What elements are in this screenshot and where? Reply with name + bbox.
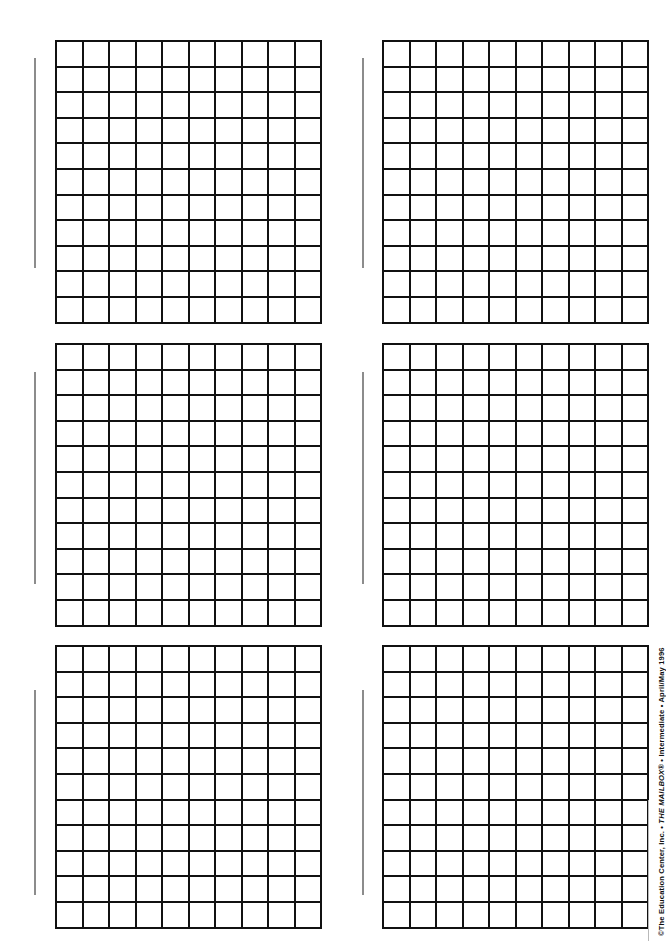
grid-cell[interactable]	[436, 748, 463, 774]
grid-cell[interactable]	[463, 672, 490, 698]
grid-cell[interactable]	[295, 446, 322, 472]
grid-cell[interactable]	[463, 41, 490, 67]
grid-cell[interactable]	[436, 523, 463, 549]
grid-cell[interactable]	[109, 118, 136, 144]
grid-cell[interactable]	[410, 800, 437, 826]
grid-cell[interactable]	[383, 600, 410, 626]
grid-cell[interactable]	[295, 421, 322, 447]
grid-cell[interactable]	[189, 600, 216, 626]
grid-cell[interactable]	[436, 143, 463, 169]
grid-cell[interactable]	[189, 876, 216, 902]
grid-cell[interactable]	[383, 344, 410, 370]
grid-cell[interactable]	[569, 646, 596, 672]
grid-cell[interactable]	[436, 246, 463, 272]
grid-cell[interactable]	[463, 774, 490, 800]
grid-cell[interactable]	[595, 774, 622, 800]
grid-cell[interactable]	[295, 697, 322, 723]
grid-cell[interactable]	[489, 672, 516, 698]
grid-cell[interactable]	[109, 825, 136, 851]
grid-cell[interactable]	[56, 600, 83, 626]
grid-cell[interactable]	[595, 446, 622, 472]
grid-cell[interactable]	[436, 723, 463, 749]
grid-cell[interactable]	[410, 118, 437, 144]
grid-cell[interactable]	[410, 672, 437, 698]
grid-cell[interactable]	[569, 344, 596, 370]
grid-cell[interactable]	[56, 271, 83, 297]
grid-cell[interactable]	[463, 472, 490, 498]
grid-cell[interactable]	[109, 523, 136, 549]
grid-cell[interactable]	[215, 297, 242, 323]
grid-cell[interactable]	[569, 395, 596, 421]
grid-cell[interactable]	[242, 446, 269, 472]
grid-cell[interactable]	[268, 800, 295, 826]
grid-cell[interactable]	[489, 41, 516, 67]
grid-cell[interactable]	[463, 523, 490, 549]
grid-cell[interactable]	[410, 169, 437, 195]
grid-cell[interactable]	[489, 143, 516, 169]
grid-cell[interactable]	[83, 246, 110, 272]
grid-cell[interactable]	[516, 344, 543, 370]
grid-cell[interactable]	[569, 574, 596, 600]
grid-cell[interactable]	[189, 523, 216, 549]
grid-cell[interactable]	[268, 370, 295, 396]
grid-cell[interactable]	[162, 748, 189, 774]
grid-cell[interactable]	[410, 851, 437, 877]
grid-cell[interactable]	[489, 774, 516, 800]
grid-cell[interactable]	[109, 646, 136, 672]
grid-cell[interactable]	[109, 574, 136, 600]
grid-cell[interactable]	[162, 246, 189, 272]
grid-cell[interactable]	[436, 92, 463, 118]
grid-cell[interactable]	[295, 748, 322, 774]
grid-cell[interactable]	[162, 549, 189, 575]
grid-cell[interactable]	[109, 774, 136, 800]
grid-cell[interactable]	[516, 220, 543, 246]
grid-cell[interactable]	[162, 370, 189, 396]
grid-cell[interactable]	[622, 825, 649, 851]
grid-cell[interactable]	[215, 549, 242, 575]
grid-cell[interactable]	[295, 646, 322, 672]
grid-cell[interactable]	[295, 67, 322, 93]
grid-cell[interactable]	[136, 498, 163, 524]
grid-cell[interactable]	[383, 748, 410, 774]
grid-cell[interactable]	[569, 297, 596, 323]
grid-cell[interactable]	[295, 169, 322, 195]
grid-cell[interactable]	[215, 825, 242, 851]
grid-cell[interactable]	[56, 220, 83, 246]
grid-cell[interactable]	[242, 600, 269, 626]
grid-cell[interactable]	[463, 421, 490, 447]
grid-cell[interactable]	[489, 549, 516, 575]
grid-cell[interactable]	[542, 446, 569, 472]
grid-cell[interactable]	[595, 498, 622, 524]
grid-cell[interactable]	[189, 395, 216, 421]
grid-cell[interactable]	[489, 825, 516, 851]
grid-cell[interactable]	[242, 748, 269, 774]
grid-cell[interactable]	[516, 370, 543, 396]
grid-cell[interactable]	[463, 297, 490, 323]
grid-cell[interactable]	[83, 697, 110, 723]
grid-cell[interactable]	[542, 748, 569, 774]
grid-cell[interactable]	[109, 195, 136, 221]
grid-cell[interactable]	[410, 195, 437, 221]
grid-cell[interactable]	[622, 220, 649, 246]
grid-cell[interactable]	[268, 344, 295, 370]
grid-cell[interactable]	[489, 271, 516, 297]
grid-cell[interactable]	[242, 92, 269, 118]
grid-cell[interactable]	[295, 774, 322, 800]
grid-cell[interactable]	[162, 825, 189, 851]
grid-cell[interactable]	[189, 774, 216, 800]
grid-cell[interactable]	[268, 41, 295, 67]
grid-cell[interactable]	[215, 723, 242, 749]
grid-cell[interactable]	[83, 800, 110, 826]
grid-cell[interactable]	[268, 271, 295, 297]
grid-cell[interactable]	[436, 574, 463, 600]
grid-cell[interactable]	[489, 370, 516, 396]
grid-cell[interactable]	[410, 825, 437, 851]
grid-cell[interactable]	[295, 549, 322, 575]
grid-cell[interactable]	[136, 523, 163, 549]
grid-cell[interactable]	[542, 574, 569, 600]
grid-cell[interactable]	[489, 646, 516, 672]
grid-cell[interactable]	[489, 902, 516, 928]
grid-cell[interactable]	[295, 220, 322, 246]
grid-cell[interactable]	[136, 195, 163, 221]
grid-cell[interactable]	[268, 472, 295, 498]
